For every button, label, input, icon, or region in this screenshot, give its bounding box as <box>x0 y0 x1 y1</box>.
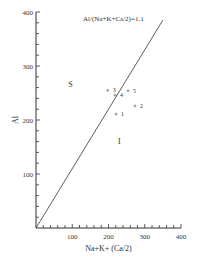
y-axis-label: Al <box>11 115 20 124</box>
x-tick-label: 200 <box>103 233 114 241</box>
scatter-chart: 100200300400100200300400Na+K+ (Ca/2)AlAl… <box>0 0 200 262</box>
data-point-label: 4 <box>120 92 123 98</box>
y-tick-label: 300 <box>23 63 34 71</box>
region-label: I <box>118 137 121 146</box>
region-label: S <box>68 80 72 89</box>
data-point-label: 2 <box>140 103 143 109</box>
y-tick-label: 200 <box>23 117 34 125</box>
y-tick-label: 100 <box>23 171 34 179</box>
data-point-label: 3 <box>113 87 116 93</box>
x-axis-label: Na+K+ (Ca/2) <box>85 244 132 253</box>
data-point-label: 1 <box>121 111 124 117</box>
x-tick-label: 100 <box>67 233 78 241</box>
reference-line <box>36 20 163 228</box>
y-tick-label: 400 <box>23 9 34 17</box>
x-tick-label: 300 <box>140 233 151 241</box>
reference-line-label: Al/(Na+K+Ca/2)=1.1 <box>83 15 144 23</box>
x-tick-label: 400 <box>176 233 187 241</box>
data-point-label: 5 <box>133 88 136 94</box>
